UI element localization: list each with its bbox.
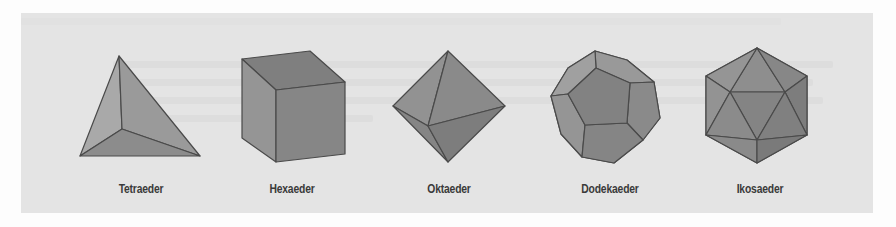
label-dodecahedron: Dodekaeder [558,182,661,196]
label-icosahedron: Ikosaeder [708,182,811,196]
dodecahedron-shape [551,51,660,163]
octahedron-shape [393,51,505,162]
hexahedron-shape [242,51,345,162]
tetrahedron-shape [80,56,200,156]
icosahedron-shape [706,48,807,163]
label-hexahedron: Hexaeder [240,182,343,196]
scanned-page: Tetraeder Hexaeder Oktaeder Dodekaeder I… [0,0,896,227]
label-octahedron: Oktaeder [397,182,500,196]
label-tetrahedron: Tetraeder [89,182,192,196]
